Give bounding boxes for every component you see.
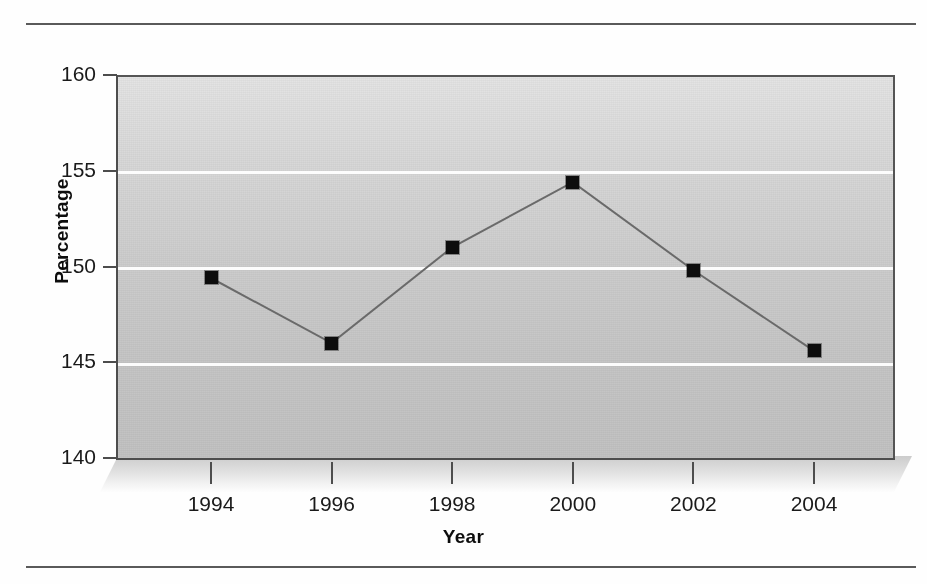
x-axis-spine [116, 458, 895, 460]
data-point-2002 [687, 264, 700, 277]
series-line-percentage [118, 75, 893, 458]
y-tick-160 [103, 74, 117, 76]
x-tick-label-1994: 1994 [161, 492, 261, 516]
top-rule [26, 23, 916, 25]
y-tick-155 [103, 170, 117, 172]
x-tick-2004 [813, 462, 815, 484]
x-tick-1996 [331, 462, 333, 484]
line-chart: 140145150155160 199419961998200020022004… [0, 30, 927, 555]
y-axis-title: Percentage [51, 131, 73, 331]
x-tick-1998 [451, 462, 453, 484]
data-point-1998 [446, 241, 459, 254]
y-tick-145 [103, 361, 117, 363]
x-tick-label-1998: 1998 [402, 492, 502, 516]
y-tick-150 [103, 266, 117, 268]
y-tick-140 [103, 457, 117, 459]
data-point-2000 [566, 176, 579, 189]
y-tick-label-160: 160 [36, 62, 96, 86]
data-point-1994 [205, 271, 218, 284]
data-layer [118, 75, 893, 458]
x-tick-label-1996: 1996 [282, 492, 382, 516]
x-tick-label-2004: 2004 [764, 492, 864, 516]
data-point-1996 [325, 337, 338, 350]
x-tick-label-2000: 2000 [523, 492, 623, 516]
y-tick-label-140: 140 [36, 445, 96, 469]
y-tick-label-145: 145 [36, 349, 96, 373]
bottom-rule [26, 566, 916, 568]
figure-page: 140145150155160 199419961998200020022004… [0, 0, 927, 584]
x-tick-1994 [210, 462, 212, 484]
plot-base-slab [100, 456, 912, 492]
x-tick-2002 [692, 462, 694, 484]
x-tick-label-2002: 2002 [643, 492, 743, 516]
x-tick-2000 [572, 462, 574, 484]
x-axis-title: Year [0, 526, 927, 548]
data-point-2004 [808, 344, 821, 357]
